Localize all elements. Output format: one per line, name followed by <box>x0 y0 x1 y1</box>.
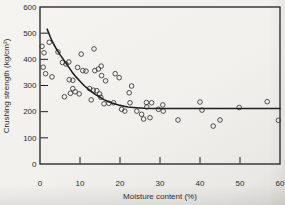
data-point <box>62 95 67 100</box>
data-point <box>127 91 132 96</box>
data-point <box>117 75 122 80</box>
data-point <box>149 101 154 106</box>
data-point <box>77 92 82 97</box>
data-point <box>68 91 73 96</box>
data-point <box>128 101 133 106</box>
plot-frame <box>40 7 280 164</box>
data-point <box>42 51 47 56</box>
data-point <box>92 47 97 52</box>
scanned-chart-figure: 01002003004005006000102030405060 Moistur… <box>0 0 285 205</box>
data-point <box>211 124 216 129</box>
data-point <box>43 71 48 76</box>
data-point <box>47 40 52 45</box>
y-tick-label: 0 <box>32 160 37 169</box>
x-tick-label: 30 <box>156 179 165 188</box>
x-tick-label: 0 <box>38 179 43 188</box>
y-tick-label: 100 <box>23 134 37 143</box>
data-point <box>148 115 153 120</box>
data-point <box>218 118 223 123</box>
data-point <box>141 117 146 122</box>
data-point <box>135 109 140 114</box>
data-point <box>113 71 118 76</box>
x-tick-label: 10 <box>76 179 85 188</box>
data-point <box>198 100 203 105</box>
data-point <box>103 79 108 84</box>
data-point <box>50 75 55 80</box>
data-point <box>161 109 166 114</box>
y-tick-label: 600 <box>23 3 37 12</box>
y-tick-label: 400 <box>23 55 37 64</box>
data-point <box>99 64 104 69</box>
plot-area: 01002003004005006000102030405060 <box>23 3 285 188</box>
data-point <box>71 86 76 91</box>
x-tick-label: 60 <box>276 179 285 188</box>
data-point <box>176 118 181 123</box>
x-tick-label: 20 <box>116 179 125 188</box>
chart-canvas: 01002003004005006000102030405060 Moistur… <box>0 0 285 205</box>
data-point <box>102 102 107 107</box>
data-point <box>144 100 149 105</box>
data-point <box>84 69 89 74</box>
data-point <box>75 65 80 70</box>
y-tick-label: 500 <box>23 29 37 38</box>
x-tick-label: 50 <box>236 179 245 188</box>
data-point <box>41 65 46 70</box>
data-point <box>89 98 94 103</box>
y-tick-label: 200 <box>23 107 37 116</box>
x-axis-title: Moisture content (%) <box>123 192 197 201</box>
y-tick-label: 300 <box>23 81 37 90</box>
data-point <box>265 99 270 104</box>
data-point <box>79 52 84 57</box>
data-point <box>139 112 144 117</box>
data-point <box>129 84 134 89</box>
data-point <box>161 103 166 108</box>
data-point <box>99 73 104 78</box>
y-axis-title: Crushing strength (kg/cm²) <box>2 38 11 133</box>
x-tick-label: 40 <box>196 179 205 188</box>
